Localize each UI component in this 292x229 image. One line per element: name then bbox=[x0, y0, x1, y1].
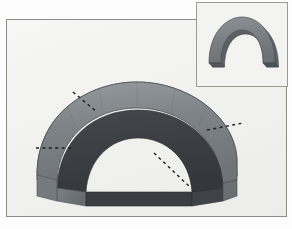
arch-front-face bbox=[209, 17, 275, 63]
vault-right-end-cap bbox=[223, 180, 237, 201]
app-root bbox=[0, 0, 292, 229]
front-view-thumbnail[interactable] bbox=[196, 2, 288, 87]
arch-thumbnail-scene bbox=[197, 3, 286, 85]
thumbnail-canvas[interactable] bbox=[197, 3, 287, 86]
arch-leg-ends bbox=[209, 63, 279, 67]
